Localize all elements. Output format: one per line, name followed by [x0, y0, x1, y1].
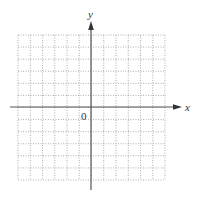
x-axis-label: x: [184, 101, 190, 113]
x-axis-arrow-icon: [173, 104, 182, 110]
y-axis: [88, 21, 94, 190]
y-axis-arrow-icon: [88, 21, 94, 30]
y-axis-label: y: [87, 8, 93, 20]
origin-label: 0: [81, 110, 87, 122]
x-axis: [10, 104, 182, 110]
coordinate-plane: x y 0: [0, 0, 198, 200]
